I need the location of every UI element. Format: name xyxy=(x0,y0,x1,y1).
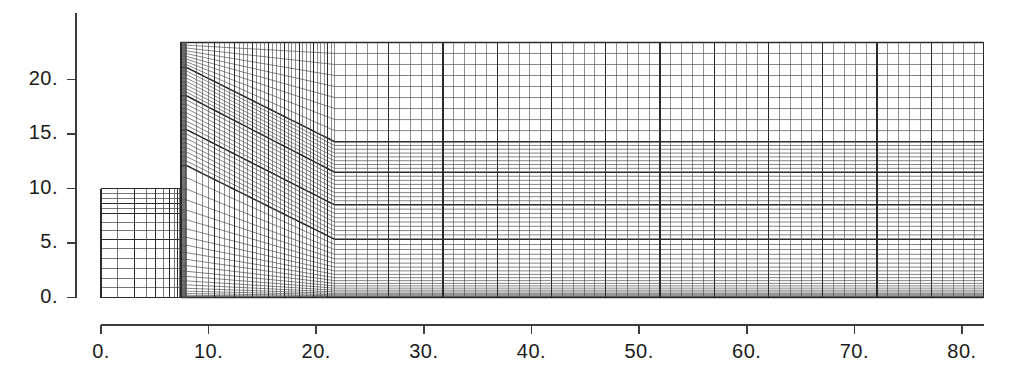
x-axis-tick-label: 60. xyxy=(707,340,787,363)
y-axis-tick-label: 5. xyxy=(40,230,58,253)
y-axis-tick-label: 0. xyxy=(40,285,58,308)
x-axis-tick-label: 0. xyxy=(61,340,141,363)
mesh-canvas xyxy=(0,0,1031,380)
y-axis-tick-label: 10. xyxy=(29,176,58,199)
x-axis-tick-label: 70. xyxy=(814,340,894,363)
y-axis-tick-label: 15. xyxy=(29,121,58,144)
x-axis-tick-label: 50. xyxy=(599,340,679,363)
x-axis-tick-label: 80. xyxy=(922,340,1002,363)
x-axis-tick-label: 30. xyxy=(384,340,464,363)
y-axis-tick-label: 20. xyxy=(29,67,58,90)
mesh-lines-group xyxy=(101,42,984,297)
x-axis-tick-label: 20. xyxy=(276,340,356,363)
x-axis-tick-label: 10. xyxy=(169,340,249,363)
mesh-figure: 0.5.10.15.20. 0.10.20.30.40.50.60.70.80. xyxy=(0,0,1031,380)
x-axis-tick-label: 40. xyxy=(492,340,572,363)
